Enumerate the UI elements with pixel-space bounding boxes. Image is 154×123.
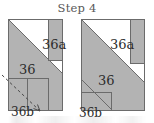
right-label-36a: 36a: [110, 38, 134, 51]
diagram-stage: 36a 36 36b 36a 36 36b: [0, 16, 154, 123]
right-label-36b: 36b: [79, 107, 102, 119]
right-unit-group: [82, 20, 145, 111]
left-label-36b: 36b: [11, 106, 34, 118]
step-diagram-figure: Step 4: [0, 0, 154, 123]
right-label-36: 36: [98, 74, 115, 87]
left-label-36a: 36a: [42, 38, 66, 51]
figure-title: Step 4: [0, 1, 154, 15]
left-label-36: 36: [19, 63, 36, 76]
